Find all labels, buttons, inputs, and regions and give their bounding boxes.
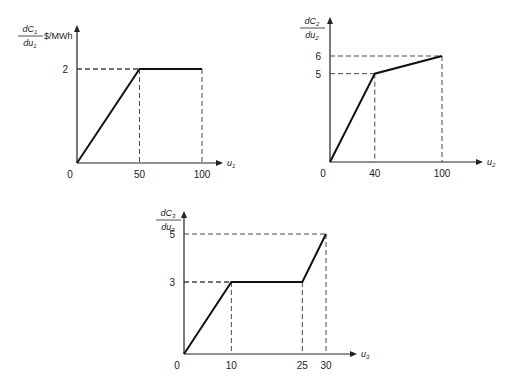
x-axis-label: u1 [227,158,235,169]
chart-panel-3: 010253035dC3du3u3 [156,208,370,371]
x-axis-arrow-icon [216,160,223,166]
y-tick-label: 2 [62,64,68,75]
x-axis-arrow-icon [476,159,483,165]
y-axis-label-numerator: dC1 [23,24,38,35]
x-tick-label: 0 [320,168,326,179]
y-axis-label-numerator: dC3 [161,208,177,219]
x-tick-label: 10 [226,360,238,371]
y-tick-label: 3 [169,277,175,288]
incremental-cost-curve [77,69,202,163]
x-axis-label: u2 [487,157,496,168]
y-axis-label-denominator: du3 [161,222,175,233]
y-axis-arrow-icon [74,25,80,32]
x-tick-label: 25 [297,360,309,371]
y-axis-label-numerator: dC2 [305,16,321,27]
incremental-cost-figure: 0501002dC1du1$/MWhu104010056dC2du2u20102… [0,0,506,380]
x-tick-label: 0 [67,169,73,180]
y-tick-label: 6 [315,51,321,62]
x-axis-label: u3 [361,349,370,360]
incremental-cost-curve [330,56,442,162]
y-axis-arrow-icon [327,17,333,24]
x-tick-label: 100 [434,168,451,179]
incremental-cost-curve [184,234,326,354]
y-tick-label: 5 [315,69,321,80]
y-axis-label-denominator: du2 [305,30,319,41]
y-axis-label-denominator: du1 [23,38,36,49]
x-tick-label: 40 [369,168,381,179]
y-axis-arrow-icon [181,211,187,218]
y-axis-unit-label: $/MWh [44,31,73,41]
chart-panel-1: 0501002dC1du1$/MWhu1 [18,24,235,180]
x-tick-label: 0 [174,360,180,371]
x-axis-arrow-icon [350,351,357,357]
x-tick-label: 50 [134,169,146,180]
x-tick-label: 100 [194,169,211,180]
chart-panel-2: 04010056dC2du2u2 [300,16,496,179]
x-tick-label: 30 [320,360,332,371]
